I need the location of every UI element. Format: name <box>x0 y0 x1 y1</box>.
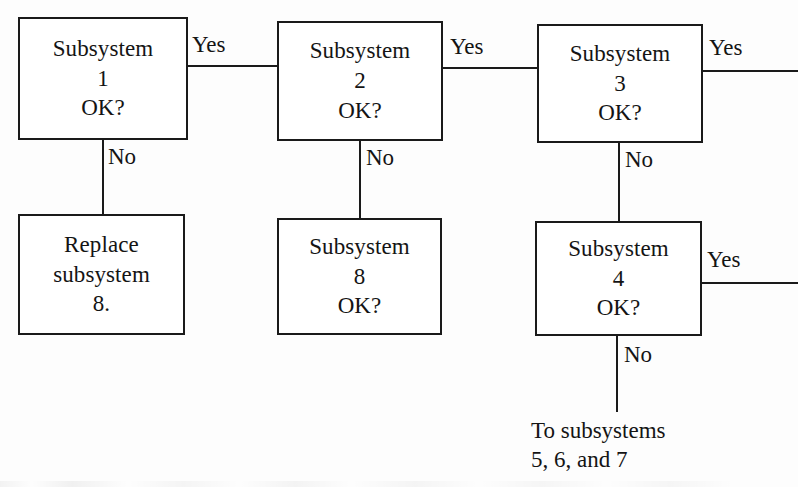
node-replace-subsystem-8-line-3: 8. <box>93 289 110 319</box>
node-replace-subsystem-8-line-2: subsystem <box>53 260 150 290</box>
scan-artifact-edge <box>0 481 798 487</box>
connector-subsystem3-no-to-subsystem4 <box>618 142 620 222</box>
node-subsystem-8-line-2: 8 <box>354 262 366 292</box>
node-subsystem-8[interactable]: Subsystem 8 OK? <box>277 218 442 335</box>
note-to-subsystems-line-2: 5, 6, and 7 <box>531 445 666 474</box>
node-subsystem-3[interactable]: Subsystem 3 OK? <box>537 24 703 143</box>
node-subsystem-1-line-1: Subsystem <box>53 34 154 64</box>
node-subsystem-1-line-3: OK? <box>81 93 125 123</box>
node-subsystem-8-line-1: Subsystem <box>309 232 410 262</box>
edge-label-yes-subsystem4: Yes <box>707 248 740 271</box>
node-subsystem-4-line-2: 4 <box>613 264 625 294</box>
node-subsystem-4[interactable]: Subsystem 4 OK? <box>535 221 702 336</box>
node-subsystem-4-line-1: Subsystem <box>568 234 669 264</box>
note-to-subsystems: To subsystems 5, 6, and 7 <box>531 416 666 475</box>
node-subsystem-2-line-3: OK? <box>338 96 382 126</box>
note-to-subsystems-line-1: To subsystems <box>531 416 666 445</box>
node-subsystem-2[interactable]: Subsystem 2 OK? <box>277 21 443 141</box>
node-subsystem-2-line-1: Subsystem <box>310 36 411 66</box>
edge-label-yes-subsystem3: Yes <box>709 36 742 59</box>
connector-subsystem4-yes-offpage <box>702 282 798 284</box>
edge-label-yes-subsystem1: Yes <box>192 33 225 56</box>
edge-label-yes-subsystem2: Yes <box>450 35 483 58</box>
connector-subsystem2-no-to-subsystem8 <box>359 140 361 219</box>
connector-subsystem2-yes-to-subsystem3 <box>443 67 538 69</box>
connector-subsystem4-no-to-note <box>616 335 618 412</box>
connector-subsystem1-no-to-replace <box>102 139 104 215</box>
node-subsystem-3-line-3: OK? <box>598 98 642 128</box>
edge-label-no-subsystem4: No <box>624 343 652 366</box>
connector-subsystem1-yes-to-subsystem2 <box>188 65 278 67</box>
edge-label-no-subsystem1: No <box>108 145 136 168</box>
node-replace-subsystem-8[interactable]: Replace subsystem 8. <box>18 214 185 335</box>
flowchart-diagram: Subsystem 1 OK? Subsystem 2 OK? Subsyste… <box>0 0 798 487</box>
node-subsystem-8-line-3: OK? <box>338 291 382 321</box>
edge-label-no-subsystem3: No <box>625 148 653 171</box>
edge-label-no-subsystem2: No <box>366 146 394 169</box>
node-subsystem-2-line-2: 2 <box>354 66 366 96</box>
node-replace-subsystem-8-line-1: Replace <box>64 230 139 260</box>
node-subsystem-3-line-1: Subsystem <box>570 39 671 69</box>
node-subsystem-1-line-2: 1 <box>97 64 109 94</box>
node-subsystem-4-line-3: OK? <box>597 293 641 323</box>
node-subsystem-1[interactable]: Subsystem 1 OK? <box>18 17 188 140</box>
node-subsystem-3-line-2: 3 <box>614 69 626 99</box>
connector-subsystem3-yes-offpage <box>703 70 798 72</box>
